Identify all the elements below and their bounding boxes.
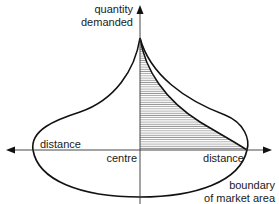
- boundary-label-line2: of market area: [204, 192, 276, 204]
- left-distance-label: distance: [40, 138, 81, 150]
- centre-label: centre: [106, 152, 137, 164]
- arrow-up-icon: [137, 5, 144, 14]
- demand-cone-shaded-area: [140, 38, 247, 150]
- arrow-left-icon: [6, 147, 15, 154]
- market-area-diagram: quantity demanded distance centre distan…: [0, 0, 279, 204]
- y-axis-label-line2: demanded: [81, 16, 133, 28]
- y-axis-label-line1: quantity: [94, 3, 133, 15]
- boundary-label-line1: boundary: [229, 179, 275, 191]
- right-distance-label: distance: [203, 152, 244, 164]
- arrow-right-icon: [263, 147, 272, 154]
